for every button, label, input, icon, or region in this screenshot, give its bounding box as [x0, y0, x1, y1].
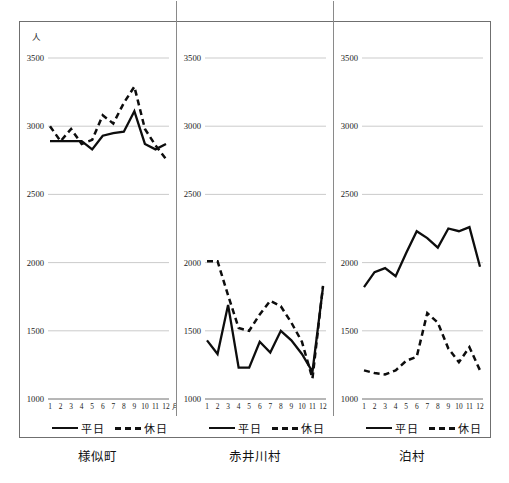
x-tick-label-3: 3	[69, 402, 73, 411]
legend-label-weekday: 平日	[81, 420, 104, 436]
y-tick-label-1000: 1000	[27, 394, 44, 404]
x-tick-label-12: 12	[319, 402, 327, 411]
y-tick-label-3500: 3500	[341, 53, 358, 63]
legend-item-holiday-3: 休日	[429, 420, 481, 436]
x-tick-label-5: 5	[90, 402, 94, 411]
y-tick-label-1000: 1000	[341, 394, 358, 404]
x-tick-label-10: 10	[455, 402, 463, 411]
x-tick-label-5: 5	[247, 402, 251, 411]
series-line-holiday	[364, 313, 480, 374]
x-tick-label-2: 2	[373, 402, 377, 411]
caption-panel-2: 赤井川村	[176, 446, 333, 465]
y-tick-label-2500: 2500	[27, 189, 44, 199]
legend-label-weekday: 平日	[395, 420, 418, 436]
plot-area-2: 100015002000250030003500123456789101112	[176, 0, 333, 440]
x-tick-label-3: 3	[383, 402, 387, 411]
caption-panel-3: 泊村	[333, 446, 491, 465]
x-tick-label-3: 3	[226, 402, 230, 411]
x-tick-label-6: 6	[258, 402, 262, 411]
legend-label-holiday: 休日	[458, 420, 481, 436]
x-tick-label-1: 1	[48, 402, 52, 411]
legend-swatch-solid-icon	[209, 427, 235, 429]
y-tick-label-3500: 3500	[184, 53, 201, 63]
x-tick-label-4: 4	[394, 402, 398, 411]
legend-label-holiday: 休日	[301, 420, 324, 436]
x-tick-label-7: 7	[425, 402, 429, 411]
x-tick-label-9: 9	[133, 402, 137, 411]
x-tick-label-10: 10	[141, 402, 149, 411]
x-tick-label-1: 1	[362, 402, 366, 411]
legend-label-weekday: 平日	[238, 420, 261, 436]
x-tick-label-12: 12	[162, 402, 170, 411]
x-tick-label-11: 11	[152, 402, 159, 411]
x-tick-label-7: 7	[111, 402, 115, 411]
y-tick-label-2000: 2000	[184, 258, 201, 268]
y-tick-label-1500: 1500	[184, 326, 201, 336]
panel-captions: 様似町 赤井川村 泊村	[19, 446, 491, 476]
plot-area-1: 100015002000250030003500123456789101112月	[19, 0, 176, 440]
x-tick-label-1: 1	[205, 402, 209, 411]
series-line-weekday	[364, 227, 480, 287]
series-line-holiday	[50, 87, 166, 159]
caption-panel-1: 様似町	[19, 446, 176, 465]
x-tick-label-8: 8	[279, 402, 283, 411]
series-line-weekday	[50, 111, 166, 149]
legend-item-weekday-3: 平日	[366, 420, 418, 436]
x-tick-label-9: 9	[447, 402, 451, 411]
x-tick-label-9: 9	[290, 402, 294, 411]
x-tick-label-5: 5	[404, 402, 408, 411]
x-tick-label-2: 2	[59, 402, 63, 411]
plot-area-3: 100015002000250030003500123456789101112	[333, 0, 491, 440]
legend-swatch-solid-icon	[52, 427, 78, 429]
y-tick-label-3000: 3000	[27, 121, 44, 131]
legend-swatch-dashed-icon	[115, 427, 141, 430]
x-tick-label-2: 2	[216, 402, 220, 411]
x-tick-label-4: 4	[80, 402, 84, 411]
y-tick-label-1500: 1500	[27, 326, 44, 336]
y-tick-label-2500: 2500	[341, 189, 358, 199]
x-tick-label-4: 4	[237, 402, 241, 411]
x-tick-label-11: 11	[309, 402, 316, 411]
panel-sample-1: 100015002000250030003500123456789101112月	[19, 0, 176, 483]
y-tick-label-2500: 2500	[184, 189, 201, 199]
legend-swatch-dashed-icon	[272, 427, 298, 430]
legend-item-holiday-1: 休日	[115, 420, 167, 436]
legend-item-holiday-2: 休日	[272, 420, 324, 436]
y-tick-label-3500: 3500	[27, 53, 44, 63]
legend-swatch-solid-icon	[366, 427, 392, 429]
legend-1: 平日 休日	[52, 420, 167, 436]
x-tick-label-12: 12	[476, 402, 484, 411]
y-tick-label-3000: 3000	[341, 121, 358, 131]
panel-sample-2: 100015002000250030003500123456789101112	[176, 0, 333, 483]
figure-root: 人 10001500200025003000350012345678910111…	[0, 0, 509, 483]
legend-2: 平日 休日	[209, 420, 324, 436]
y-tick-label-2000: 2000	[27, 258, 44, 268]
y-tick-label-1500: 1500	[341, 326, 358, 336]
legend-swatch-dashed-icon	[429, 427, 455, 430]
x-tick-label-8: 8	[436, 402, 440, 411]
x-tick-label-8: 8	[122, 402, 126, 411]
legend-item-weekday-2: 平日	[209, 420, 261, 436]
x-tick-label-7: 7	[268, 402, 272, 411]
series-line-weekday	[207, 287, 323, 372]
legend-label-holiday: 休日	[144, 420, 167, 436]
panel-sample-3: 100015002000250030003500123456789101112	[333, 0, 491, 483]
legend-3: 平日 休日	[366, 420, 481, 436]
x-tick-label-11: 11	[466, 402, 473, 411]
x-tick-label-6: 6	[101, 402, 105, 411]
y-tick-label-1000: 1000	[184, 394, 201, 404]
x-tick-label-10: 10	[298, 402, 306, 411]
legend-item-weekday-1: 平日	[52, 420, 104, 436]
y-tick-label-2000: 2000	[341, 258, 358, 268]
y-tick-label-3000: 3000	[184, 121, 201, 131]
x-tick-label-6: 6	[415, 402, 419, 411]
